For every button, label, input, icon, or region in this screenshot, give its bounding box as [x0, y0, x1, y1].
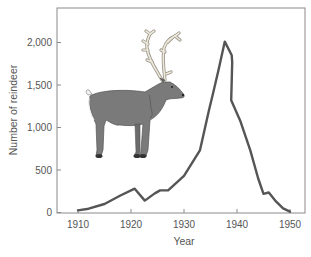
- x-tick-label: 1950: [279, 219, 302, 230]
- reindeer-population-chart: 0 500 1,000 1,500 2,000 1910 1920 1930 1…: [0, 0, 311, 257]
- x-axis-title: Year: [173, 235, 195, 247]
- y-axis-title: Number of reindeer: [7, 64, 19, 155]
- x-tick-label: 1920: [120, 219, 143, 230]
- x-tick-label: 1910: [67, 219, 90, 230]
- y-tick-label: 1,500: [27, 80, 52, 91]
- y-tick-label: 0: [46, 207, 52, 218]
- y-tick-label: 2,000: [27, 37, 52, 48]
- y-tick-label: 500: [35, 165, 52, 176]
- x-tick-label: 1930: [173, 219, 196, 230]
- y-tick-label: 1,000: [27, 122, 52, 133]
- x-tick-label: 1940: [226, 219, 249, 230]
- y-axis: 0 500 1,000 1,500 2,000: [27, 37, 61, 218]
